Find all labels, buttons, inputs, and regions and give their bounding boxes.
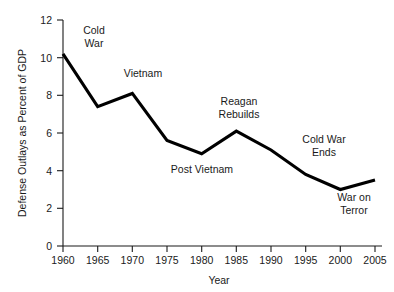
annotation-reagan-rebuilds-line1: Reagan xyxy=(221,95,258,107)
annotation-war-on-terror-line1: War on xyxy=(337,191,371,203)
x-tick-label-1970: 1970 xyxy=(121,254,145,266)
annotation-reagan-rebuilds-line2: Rebuilds xyxy=(219,108,260,120)
y-tick-label-4: 4 xyxy=(46,165,52,177)
annotation-cold-war-ends-line2: Ends xyxy=(312,146,336,158)
annotation-cold-war-ends-line1: Cold War xyxy=(302,133,346,145)
x-axis-title: Year xyxy=(208,274,230,286)
y-tick-label-12: 12 xyxy=(40,14,52,26)
annotation-vietnam-line1: Vietnam xyxy=(124,67,163,79)
x-tick-label-1965: 1965 xyxy=(86,254,110,266)
y-tick-label-10: 10 xyxy=(40,52,52,64)
y-tick-labels: 0 2 4 6 8 10 12 xyxy=(40,14,52,252)
y-tick-label-8: 8 xyxy=(46,89,52,101)
defense-outlays-chart: 0 2 4 6 8 10 12 1960 1965 1970 1975 xyxy=(0,0,394,292)
x-tick-marks xyxy=(63,246,375,252)
y-tick-label-6: 6 xyxy=(46,127,52,139)
x-tick-label-1990: 1990 xyxy=(259,254,283,266)
chart-canvas: 0 2 4 6 8 10 12 1960 1965 1970 1975 xyxy=(0,0,394,292)
x-tick-label-1975: 1975 xyxy=(155,254,179,266)
annotation-post-vietnam-line1: Post Vietnam xyxy=(171,163,234,175)
x-tick-label-1980: 1980 xyxy=(190,254,214,266)
annotation-cold-war-line1: Cold xyxy=(83,24,105,36)
y-tick-label-2: 2 xyxy=(46,202,52,214)
x-tick-labels: 1960 1965 1970 1975 1980 1985 1990 1995 … xyxy=(51,254,387,266)
x-tick-label-1960: 1960 xyxy=(51,254,75,266)
annotations-group: Cold War Vietnam Post Vietnam Reagan Reb… xyxy=(83,24,371,216)
y-tick-marks xyxy=(57,20,63,246)
annotation-war-on-terror-line2: Terror xyxy=(340,204,368,216)
x-tick-label-1995: 1995 xyxy=(294,254,318,266)
x-tick-label-2005: 2005 xyxy=(363,254,387,266)
annotation-cold-war-line2: War xyxy=(85,37,104,49)
y-axis-title: Defense Outlays as Percent of GDP xyxy=(16,49,28,217)
x-tick-label-1985: 1985 xyxy=(225,254,249,266)
y-tick-label-0: 0 xyxy=(46,240,52,252)
x-tick-label-2000: 2000 xyxy=(329,254,353,266)
